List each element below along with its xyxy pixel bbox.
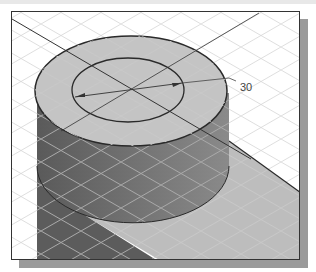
top-text-strip xyxy=(0,0,316,4)
cylinder-drawing: 30 xyxy=(12,12,299,259)
dimension-label: 30 xyxy=(240,81,252,93)
cad-viewport[interactable]: 30 xyxy=(11,11,300,260)
